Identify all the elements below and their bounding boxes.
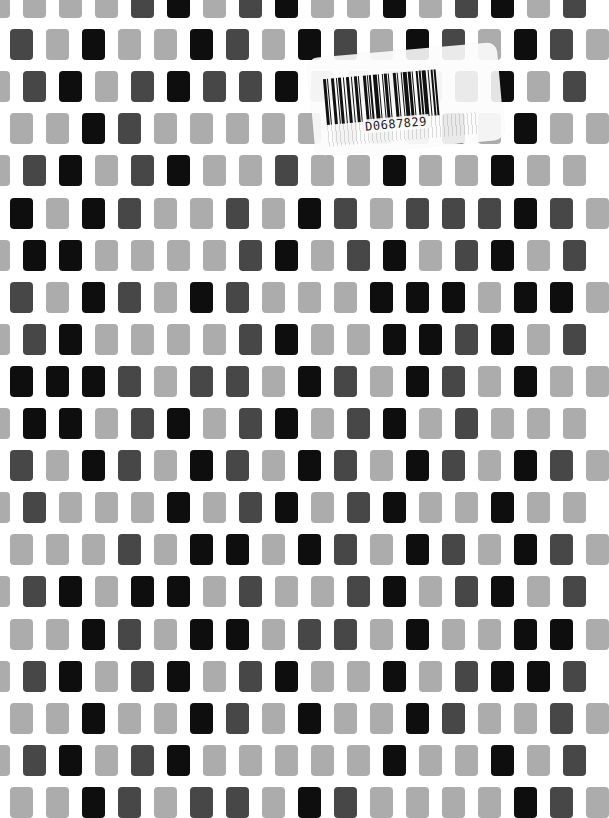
mosaic-tile: [406, 787, 429, 818]
mosaic-tile: [203, 661, 226, 692]
mosaic-tile: [203, 155, 226, 186]
mosaic-tile: [478, 450, 501, 481]
mosaic-tile: [370, 450, 393, 481]
mosaic-tile: [347, 661, 370, 692]
mosaic-tile: [370, 198, 393, 229]
mosaic-tile: [154, 450, 177, 481]
mosaic-tile: [527, 240, 550, 271]
mosaic-tile: [550, 534, 573, 565]
mosaic-tile: [442, 534, 465, 565]
mosaic-tile: [131, 576, 154, 607]
mosaic-tile: [455, 661, 478, 692]
mosaic-tile: [550, 29, 573, 60]
mosaic-tile: [275, 71, 298, 102]
mosaic-tile: [527, 71, 550, 102]
mosaic-tile: [95, 324, 118, 355]
mosaic-tile: [455, 240, 478, 271]
mosaic-tile: [23, 0, 46, 18]
mosaic-tile: [131, 240, 154, 271]
mosaic-tile: [563, 576, 586, 607]
mosaic-tile: [311, 155, 334, 186]
mosaic-tile: [334, 703, 357, 734]
mosaic-tile: [311, 408, 334, 439]
mosaic-tile: [131, 661, 154, 692]
mosaic-tile: [442, 787, 465, 818]
mosaic-tile: [95, 661, 118, 692]
mosaic-tile: [455, 492, 478, 523]
mosaic-tile: [514, 534, 537, 565]
mosaic-tile: [118, 450, 141, 481]
mosaic-tile: [455, 324, 478, 355]
mosaic-tile: [586, 534, 609, 565]
mosaic-tile: [311, 240, 334, 271]
mosaic-tile: [46, 282, 69, 313]
mosaic-tile: [478, 366, 501, 397]
mosaic-tile: [478, 619, 501, 650]
mosaic-tile: [347, 0, 370, 18]
mosaic-tile: [46, 619, 69, 650]
mosaic-tile: [167, 0, 190, 18]
mosaic-tile: [154, 534, 177, 565]
mosaic-tile: [311, 576, 334, 607]
mosaic-tile: [442, 703, 465, 734]
mosaic-tile: [23, 745, 46, 776]
mosaic-tile: [203, 408, 226, 439]
mosaic-tile: [563, 408, 586, 439]
mosaic-tile: [550, 113, 573, 144]
mosaic-tile: [167, 71, 190, 102]
mosaic-tile: [383, 745, 406, 776]
mosaic-tile: [586, 619, 609, 650]
mosaic-tile: [0, 240, 10, 271]
mosaic-tile: [442, 198, 465, 229]
mosaic-tile: [118, 366, 141, 397]
mosaic-tile: [262, 198, 285, 229]
mosaic-tile: [514, 619, 537, 650]
mosaic-tile: [347, 576, 370, 607]
mosaic-tile: [586, 366, 609, 397]
mosaic-tile: [82, 619, 105, 650]
mosaic-tile: [406, 198, 429, 229]
mosaic-tile: [563, 71, 586, 102]
mosaic-tile: [478, 198, 501, 229]
mosaic-tile: [154, 113, 177, 144]
mosaic-tile: [275, 745, 298, 776]
mosaic-tile: [190, 282, 213, 313]
mosaic-tile: [10, 29, 33, 60]
mosaic-tile: [419, 661, 442, 692]
mosaic-tile: [0, 576, 10, 607]
mosaic-tile: [82, 534, 105, 565]
mosaic-tile: [406, 534, 429, 565]
mosaic-tile: [0, 661, 10, 692]
mosaic-tile: [131, 492, 154, 523]
mosaic-tile: [563, 492, 586, 523]
mosaic-tile: [419, 408, 442, 439]
mosaic-tile: [82, 703, 105, 734]
mosaic-tile: [0, 745, 10, 776]
mosaic-tile: [275, 492, 298, 523]
mosaic-tile: [478, 703, 501, 734]
mosaic-tile: [491, 0, 514, 18]
mosaic-tile: [46, 29, 69, 60]
mosaic-tile: [455, 745, 478, 776]
mosaic-tile: [370, 366, 393, 397]
mosaic-tile: [46, 787, 69, 818]
mosaic-tile: [0, 71, 10, 102]
mosaic-tile: [226, 113, 249, 144]
mosaic-tile: [95, 745, 118, 776]
mosaic-tile: [298, 366, 321, 397]
mosaic-tile: [298, 703, 321, 734]
mosaic-tile: [118, 113, 141, 144]
mosaic-tile: [154, 787, 177, 818]
mosaic-tile: [334, 534, 357, 565]
mosaic-tile: [82, 787, 105, 818]
mosaic-tile: [478, 787, 501, 818]
mosaic-tile: [239, 576, 262, 607]
mosaic-tile: [442, 450, 465, 481]
mosaic-tile: [203, 0, 226, 18]
mosaic-tile: [226, 450, 249, 481]
mosaic-tile: [239, 240, 262, 271]
mosaic-tile: [586, 29, 609, 60]
mosaic-tile: [478, 282, 501, 313]
mosaic-tile: [406, 619, 429, 650]
mosaic-tile: [275, 240, 298, 271]
